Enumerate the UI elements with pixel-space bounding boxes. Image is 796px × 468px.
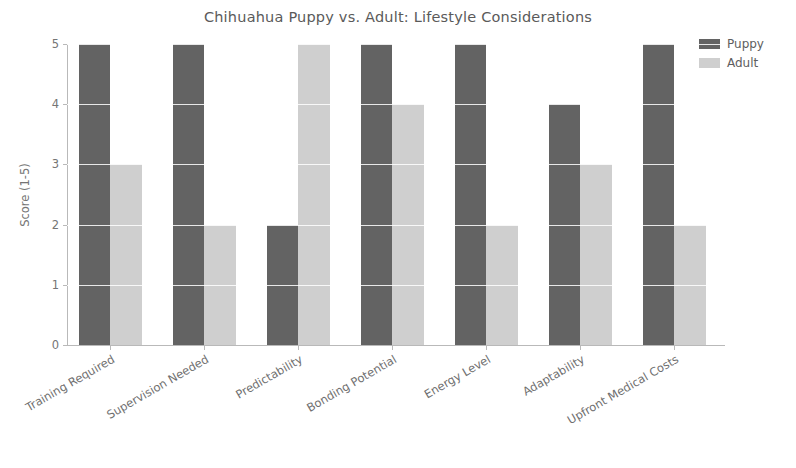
bar-puppy-6[interactable] xyxy=(643,44,675,345)
y-axis-label: Score (1-5) xyxy=(18,163,32,227)
plot-area xyxy=(67,44,725,345)
bar-adult-4[interactable] xyxy=(486,225,518,345)
bar-adult-2[interactable] xyxy=(298,44,330,345)
x-axis-line xyxy=(67,345,725,346)
x-tick-mark xyxy=(392,346,393,350)
legend-swatch-icon-puppy xyxy=(699,39,720,49)
y-axis-label-container: Score (1-5) xyxy=(14,44,36,346)
legend-label-puppy: Puppy xyxy=(727,37,764,51)
x-tick-mark xyxy=(298,346,299,350)
y-tick-label: 0 xyxy=(52,338,59,352)
chart-title: Chihuahua Puppy vs. Adult: Lifestyle Con… xyxy=(0,9,796,25)
bar-adult-0[interactable] xyxy=(110,164,142,345)
bar-puppy-2[interactable] xyxy=(267,225,299,345)
chart-legend: Puppy Adult xyxy=(699,36,789,74)
bar-puppy-4[interactable] xyxy=(455,44,487,345)
chart-figure: Chihuahua Puppy vs. Adult: Lifestyle Con… xyxy=(0,0,796,468)
bar-adult-5[interactable] xyxy=(580,164,612,345)
bar-puppy-1[interactable] xyxy=(173,44,205,345)
gridline xyxy=(67,44,725,45)
legend-item-adult[interactable]: Adult xyxy=(699,55,789,71)
bar-puppy-0[interactable] xyxy=(79,44,111,345)
x-tick-mark xyxy=(486,346,487,350)
legend-item-puppy[interactable]: Puppy xyxy=(699,36,789,52)
bar-puppy-3[interactable] xyxy=(361,44,393,345)
y-tick-label: 4 xyxy=(52,97,59,111)
legend-label-adult: Adult xyxy=(727,56,758,70)
y-tick-label: 1 xyxy=(52,278,59,292)
x-tick-mark xyxy=(674,346,675,350)
y-tick-label: 2 xyxy=(52,218,59,232)
x-tick-mark xyxy=(204,346,205,350)
y-tick-label: 3 xyxy=(52,157,59,171)
y-tick-label: 5 xyxy=(52,37,59,51)
x-tick-mark xyxy=(580,346,581,350)
bar-adult-1[interactable] xyxy=(204,225,236,345)
bar-adult-6[interactable] xyxy=(674,225,706,345)
bar-puppy-5[interactable] xyxy=(549,104,581,345)
bar-adult-3[interactable] xyxy=(392,104,424,345)
legend-swatch-icon-adult xyxy=(699,58,720,68)
x-tick-mark xyxy=(110,346,111,350)
